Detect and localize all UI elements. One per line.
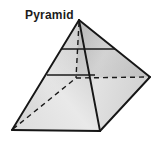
edge-base-front-left-to-front-bottom xyxy=(12,130,100,131)
shape-label: Pyramid xyxy=(25,9,74,22)
pyramid-figure: Pyramid xyxy=(0,0,162,161)
pyramid-diagram xyxy=(0,0,162,161)
